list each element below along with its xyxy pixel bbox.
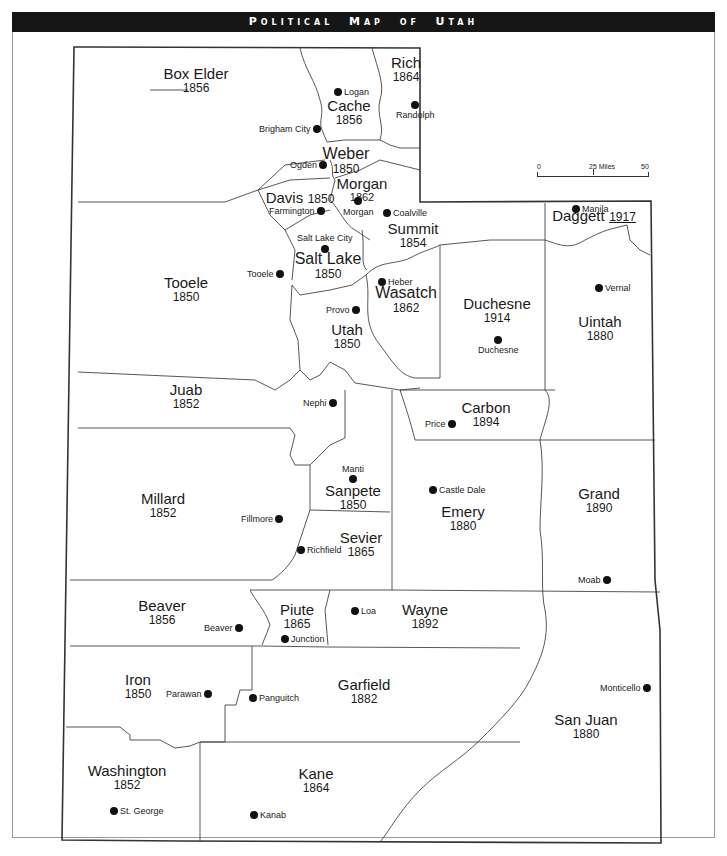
county-juab[interactable]: Juab1852	[170, 382, 203, 410]
city-manila[interactable]: Manila	[572, 204, 609, 214]
city-tooele[interactable]: Tooele	[247, 269, 284, 279]
city-dot-icon	[494, 336, 502, 344]
city-name: Junction	[291, 634, 325, 644]
city-provo[interactable]: Provo	[326, 305, 360, 315]
city-randolph[interactable]: Randolph	[396, 101, 435, 120]
city-dot-icon	[297, 546, 305, 554]
county-garfield[interactable]: Garfield1882	[338, 677, 391, 705]
county-year: 1852	[170, 398, 203, 411]
city-farmington[interactable]: Farmington	[269, 206, 325, 216]
county-sevier[interactable]: Sevier1865	[340, 530, 383, 558]
city-fillmore[interactable]: Fillmore	[241, 514, 283, 524]
county-year: 1850	[308, 192, 335, 206]
county-name: Sevier	[340, 530, 383, 546]
city-brigham-city[interactable]: Brigham City	[259, 124, 321, 134]
county-year: 1865	[340, 546, 383, 559]
county-summit[interactable]: Summit1854	[388, 221, 439, 249]
county-emery[interactable]: Emery1880	[441, 504, 484, 532]
city-castle-dale[interactable]: Castle Dale	[429, 485, 486, 495]
county-name: Iron	[125, 672, 152, 688]
county-year: 1880	[578, 330, 621, 343]
county-year: 1882	[338, 693, 391, 706]
county-kane[interactable]: Kane1864	[298, 766, 333, 794]
city-name: Morgan	[343, 207, 374, 217]
county-year: 1880	[441, 520, 484, 533]
county-san-juan[interactable]: San Juan1880	[554, 712, 617, 740]
city-vernal[interactable]: Vernal	[595, 283, 631, 293]
county-year: 1856	[138, 614, 186, 627]
county-wasatch[interactable]: Wasatch1862	[375, 285, 437, 314]
city-dot-icon	[276, 270, 284, 278]
city-dot-icon	[572, 205, 580, 213]
county-uintah[interactable]: Uintah1880	[578, 314, 621, 342]
city-name: Manti	[342, 464, 364, 474]
county-name: Cache	[327, 98, 370, 114]
county-utah[interactable]: Utah1850	[331, 322, 363, 350]
county-carbon[interactable]: Carbon1894	[461, 400, 510, 428]
county-year: 1852	[141, 507, 185, 520]
county-duchesne[interactable]: Duchesne1914	[463, 296, 531, 324]
county-name: Washington	[88, 763, 167, 779]
city-name: Farmington	[269, 206, 315, 216]
city-loa[interactable]: Loa	[351, 606, 376, 616]
county-name: Rich	[391, 55, 421, 71]
city-coalville[interactable]: Coalville	[383, 208, 427, 218]
city-beaver[interactable]: Beaver	[204, 623, 243, 633]
city-st-george[interactable]: St. George	[110, 806, 164, 816]
city-dot-icon	[235, 624, 243, 632]
city-nephi[interactable]: Nephi	[303, 398, 337, 408]
county-cache[interactable]: Cache1856	[327, 98, 370, 126]
city-manti[interactable]: Manti	[342, 464, 364, 483]
city-dot-icon	[313, 125, 321, 133]
city-dot-icon	[281, 635, 289, 643]
city-junction[interactable]: Junction	[281, 634, 325, 644]
county-salt-lake[interactable]: Salt Lake1850	[295, 251, 362, 280]
county-washington[interactable]: Washington1852	[88, 763, 167, 791]
city-richfield[interactable]: Richfield	[297, 545, 342, 555]
city-logan[interactable]: Logan	[334, 87, 369, 97]
county-name: Garfield	[338, 677, 391, 693]
county-iron[interactable]: Iron1850	[125, 672, 152, 700]
county-name: Juab	[170, 382, 203, 398]
city-dot-icon	[317, 207, 325, 215]
county-name: Millard	[141, 491, 185, 507]
county-grand[interactable]: Grand1890	[578, 486, 620, 514]
county-year: 1856	[163, 82, 228, 95]
city-price[interactable]: Price	[425, 419, 456, 429]
city-name: Price	[425, 419, 446, 429]
city-name: Fillmore	[241, 514, 273, 524]
city-duchesne[interactable]: Duchesne	[478, 336, 519, 355]
city-dot-icon	[334, 88, 342, 96]
county-name: Summit	[388, 221, 439, 237]
city-heber[interactable]: Heber	[378, 277, 413, 287]
city-kanab[interactable]: Kanab	[250, 810, 286, 820]
county-year: 1865	[280, 618, 314, 631]
county-weber[interactable]: Weber1850	[323, 146, 370, 175]
city-name: Logan	[344, 87, 369, 97]
county-year: 1862	[375, 302, 437, 315]
city-moab[interactable]: Moab	[578, 575, 611, 585]
county-davis[interactable]: Davis 1850	[266, 190, 335, 207]
county-piute[interactable]: Piute1865	[280, 602, 314, 630]
city-morgan[interactable]: Morgan	[343, 197, 374, 217]
county-millard[interactable]: Millard1852	[141, 491, 185, 519]
city-panguitch[interactable]: Panguitch	[249, 693, 299, 703]
county-tooele[interactable]: Tooele1850	[164, 275, 208, 303]
city-monticello[interactable]: Monticello	[600, 683, 651, 693]
county-beaver[interactable]: Beaver1856	[138, 598, 186, 626]
county-name: Wayne	[402, 602, 448, 618]
county-box-elder[interactable]: Box Elder1856	[163, 66, 228, 94]
county-rich[interactable]: Rich1864	[391, 55, 421, 83]
city-ogden[interactable]: Ogden	[290, 160, 327, 170]
county-name: San Juan	[554, 712, 617, 728]
city-name: Nephi	[303, 398, 327, 408]
city-parawan[interactable]: Parawan	[166, 689, 212, 699]
county-sanpete[interactable]: Sanpete1850	[325, 483, 381, 511]
city-dot-icon	[250, 811, 258, 819]
county-name: Morgan	[337, 176, 388, 192]
city-salt-lake-city[interactable]: Salt Lake City	[297, 233, 353, 253]
city-dot-icon	[275, 515, 283, 523]
county-year: 1850	[125, 688, 152, 701]
county-wayne[interactable]: Wayne1892	[402, 602, 448, 630]
city-dot-icon	[204, 690, 212, 698]
